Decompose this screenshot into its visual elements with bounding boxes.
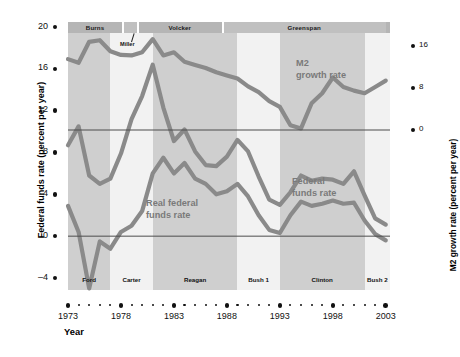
series-label-ffr-line1: Federal (292, 176, 325, 186)
y-axis-left-tick-label: 20 (22, 21, 48, 31)
x-axis-tick-label: 1988 (207, 311, 247, 321)
x-axis-minor-tick (88, 304, 90, 306)
y-axis-right-tick-label: 0 (419, 124, 441, 133)
presidential-label-reagan: Reagan (153, 276, 238, 283)
x-axis-minor-tick (311, 304, 313, 306)
x-axis-minor-tick (99, 304, 101, 306)
chart-figure: BurnsVolckerGreenspan Miller FordCarterR… (0, 0, 460, 357)
x-axis-minor-tick (205, 304, 207, 306)
presidential-label-clinton: Clinton (280, 276, 365, 283)
fed-chair-label-burns: Burns (68, 23, 122, 34)
fed-chair-label-greenspan: Greenspan (223, 23, 386, 34)
x-axis-tick-label: 1973 (48, 311, 88, 321)
x-axis-minor-tick (300, 304, 302, 306)
presidential-label-carter: Carter (110, 276, 152, 283)
fed-chair-band-strip: BurnsVolckerGreenspan (68, 22, 390, 33)
series-label-m2-line2: growth rate (296, 70, 346, 80)
series-label-federal-funds-rate: Federal funds rate (292, 176, 336, 199)
y-axis-left-tick-dot (53, 192, 57, 196)
x-axis-tick-label: 1998 (313, 311, 353, 321)
series-label-rffr-line1: Real federal (146, 198, 198, 208)
presidential-label-bush-1: Bush 1 (237, 276, 279, 283)
series-label-real-federal-funds-rate: Real federal funds rate (146, 198, 198, 221)
y-axis-right-tick-label: 16 (419, 40, 441, 49)
x-axis-tick-label: 1993 (260, 311, 300, 321)
x-axis-major-tick (278, 303, 283, 308)
x-axis-major-tick (66, 303, 71, 308)
x-axis-minor-tick (342, 304, 344, 306)
x-axis-minor-tick (109, 304, 111, 306)
x-axis-minor-tick (236, 304, 238, 306)
presidential-label-ford: Ford (68, 276, 110, 283)
x-axis-major-tick (119, 303, 124, 308)
series-label-m2: M2 growth rate (296, 58, 346, 81)
x-axis-minor-tick (215, 304, 217, 306)
x-axis-major-tick (225, 303, 230, 308)
y-axis-left-tick-dot (53, 276, 57, 280)
x-axis-minor-tick (194, 304, 196, 306)
x-axis-tick-label: 1978 (101, 311, 141, 321)
x-axis-minor-tick (141, 304, 143, 306)
x-axis-minor-tick (258, 304, 260, 306)
x-axis-minor-tick (183, 304, 185, 306)
x-axis-minor-tick (131, 304, 133, 306)
y-axis-right-tick-dot (411, 128, 415, 132)
y-axis-left-tick-dot (53, 150, 57, 154)
x-axis-minor-tick (374, 304, 376, 306)
x-axis-minor-tick (152, 304, 154, 306)
x-axis-major-tick (383, 303, 388, 308)
x-axis-tick-label: 1983 (154, 311, 194, 321)
x-axis-major-tick (172, 303, 177, 308)
fed-chair-divider (222, 22, 224, 33)
fed-chair-label-miller: Miller (120, 41, 135, 47)
y-axis-right-title: M2 growth rate (percent per year) (448, 90, 458, 320)
y-axis-left-tick-dot (53, 108, 57, 112)
fed-chair-divider (137, 22, 139, 33)
series-label-m2-line1: M2 (296, 58, 309, 68)
x-axis-minor-tick (268, 304, 270, 306)
x-axis-tick-label: 2003 (366, 311, 406, 321)
y-axis-right-tick-label: 8 (419, 82, 441, 91)
x-axis-minor-tick (78, 304, 80, 306)
y-axis-left-title: Federal funds rate (percent per year) (36, 45, 46, 275)
presidential-label-bush-2: Bush 2 (365, 276, 390, 283)
fed-chair-segment-miller (123, 22, 137, 33)
x-axis-title: Year (64, 326, 84, 337)
series-label-ffr-line2: funds rate (292, 188, 336, 198)
x-axis-minor-tick (353, 304, 355, 306)
y-axis-right-tick-dot (411, 86, 415, 90)
series-label-rffr-line2: funds rate (146, 210, 190, 220)
x-axis-minor-tick (364, 304, 366, 306)
y-axis-right-tick-dot (411, 44, 415, 48)
y-axis-left-tick-dot (53, 234, 57, 238)
fed-chair-divider (122, 22, 124, 33)
y-axis-left-tick-dot (53, 67, 57, 71)
x-axis-minor-tick (162, 304, 164, 306)
fed-chair-label-volcker: Volcker (138, 23, 222, 34)
y-axis-left-tick-dot (53, 25, 57, 29)
x-axis-major-tick (331, 303, 336, 308)
x-axis-minor-tick (289, 304, 291, 306)
x-axis-minor-tick (321, 304, 323, 306)
x-axis-minor-tick (247, 304, 249, 306)
